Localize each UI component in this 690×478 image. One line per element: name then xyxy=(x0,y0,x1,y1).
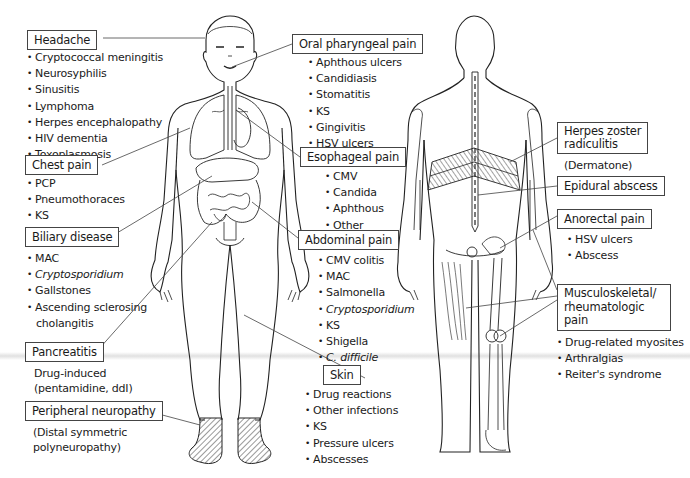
biliary-disease-label: Biliary disease xyxy=(25,227,119,247)
musculoskeletal-label: Musculoskeletal/ rheumatologic pain xyxy=(557,284,671,331)
anorectal-list: HSV ulcers Abscess xyxy=(567,232,632,264)
pancreatitis-label: Pancreatitis xyxy=(25,342,104,362)
list-item: CMV xyxy=(325,169,384,185)
esophageal-pain-label: Esophageal pain xyxy=(300,147,406,167)
biliary-disease-list: MAC Cryptosporidium Gallstones Ascending… xyxy=(27,251,147,332)
list-item: Gingivitis xyxy=(308,120,402,136)
epidural-abscess-label: Epidural abscess xyxy=(557,176,665,196)
list-item: C. difficile xyxy=(318,350,415,366)
list-item: PCP xyxy=(27,176,125,192)
list-item: Reiter's syndrome xyxy=(557,367,684,383)
list-item: Pressure ulcers xyxy=(305,436,398,452)
left-foot-hatched xyxy=(189,418,222,464)
chest-pain-list: PCP Pneumothoraces KS xyxy=(27,176,125,225)
list-item: Abscesses xyxy=(305,452,398,468)
list-item: CMV colitis xyxy=(318,253,415,269)
list-item: KS xyxy=(308,104,402,120)
list-item: Other infections xyxy=(305,403,398,419)
list-item: Aphthous xyxy=(325,201,384,217)
abdominal-list: CMV colitis MAC Salmonella Cryptosporidi… xyxy=(318,253,415,366)
peripheral-neuropathy-label: Peripheral neuropathy xyxy=(25,401,163,421)
skin-label: Skin xyxy=(323,365,361,385)
list-item: Candida xyxy=(325,185,384,201)
headache-label: Headache xyxy=(27,30,97,50)
list-item: Ascending sclerosing xyxy=(27,300,147,316)
dermatome-hatched-band xyxy=(428,148,520,190)
list-item: Salmonella xyxy=(318,285,415,301)
herpes-zoster-note: (Dermatone) xyxy=(564,158,632,173)
list-item: Shigella xyxy=(318,334,415,350)
list-item: Pneumothoraces xyxy=(27,192,125,208)
list-item-continuation: cholangitis xyxy=(27,316,147,332)
list-item: Candidiasis xyxy=(308,71,402,87)
anorectal-pain-label: Anorectal pain xyxy=(557,209,652,229)
list-item: Neurosyphilis xyxy=(27,66,163,82)
skin-list: Drug reactions Other infections KS Press… xyxy=(305,387,398,468)
list-item: KS xyxy=(27,208,125,224)
list-item: HSV ulcers xyxy=(567,232,632,248)
anterior-body-figure xyxy=(151,16,309,464)
list-item: Aphthous ulcers xyxy=(308,55,402,71)
headache-list: Cryptococcal meningitis Neurosyphilis Si… xyxy=(27,50,163,163)
neuropathy-note: (Distal symmetric polyneuropathy) xyxy=(33,425,127,455)
list-item: Sinusitis xyxy=(27,82,163,98)
list-item: KS xyxy=(318,318,415,334)
list-item: Drug reactions xyxy=(305,387,398,403)
esophageal-list: CMV Candida Aphthous Other xyxy=(325,169,384,234)
right-foot-hatched xyxy=(238,418,271,464)
list-item: Drug-related myosites xyxy=(557,335,684,351)
list-item: Arthralgias xyxy=(557,351,684,367)
list-item: Cryptococcal meningitis xyxy=(27,50,163,66)
list-item: Cryptosporidium xyxy=(27,267,147,283)
abdominal-pain-label: Abdominal pain xyxy=(298,230,399,250)
list-item: Lymphoma xyxy=(27,99,163,115)
oral-pharyngeal-pain-label: Oral pharyngeal pain xyxy=(292,34,423,54)
list-item: Gallstones xyxy=(27,283,147,299)
chest-pain-label: Chest pain xyxy=(25,155,98,175)
herpes-zoster-label: Herpes zoster radiculitis xyxy=(557,122,648,154)
list-item: KS xyxy=(305,419,398,435)
list-item: MAC xyxy=(318,269,415,285)
list-item: Stomatitis xyxy=(308,87,402,103)
list-item: Abscess xyxy=(567,248,632,264)
oral-pharyngeal-list: Aphthous ulcers Candidiasis Stomatitis K… xyxy=(308,55,402,152)
list-item: HIV dementia xyxy=(27,131,163,147)
list-item: Cryptosporidium xyxy=(318,302,415,318)
list-item: Herpes encephalopathy xyxy=(27,115,163,131)
pancreatitis-note: Drug-induced (pentamidine, ddI) xyxy=(34,366,133,396)
list-item: MAC xyxy=(27,251,147,267)
musculoskeletal-list: Drug-related myosites Arthralgias Reiter… xyxy=(557,335,684,384)
posterior-body-figure xyxy=(398,16,553,452)
